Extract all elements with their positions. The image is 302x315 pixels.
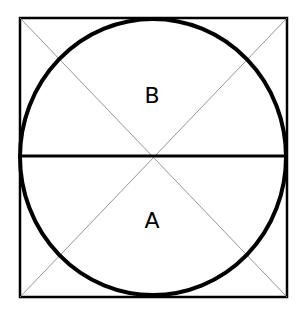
circle-in-square-diagram: B A — [0, 0, 302, 315]
region-label-a: A — [144, 210, 159, 232]
region-label-b: B — [144, 85, 159, 107]
diagram-canvas — [0, 0, 302, 315]
